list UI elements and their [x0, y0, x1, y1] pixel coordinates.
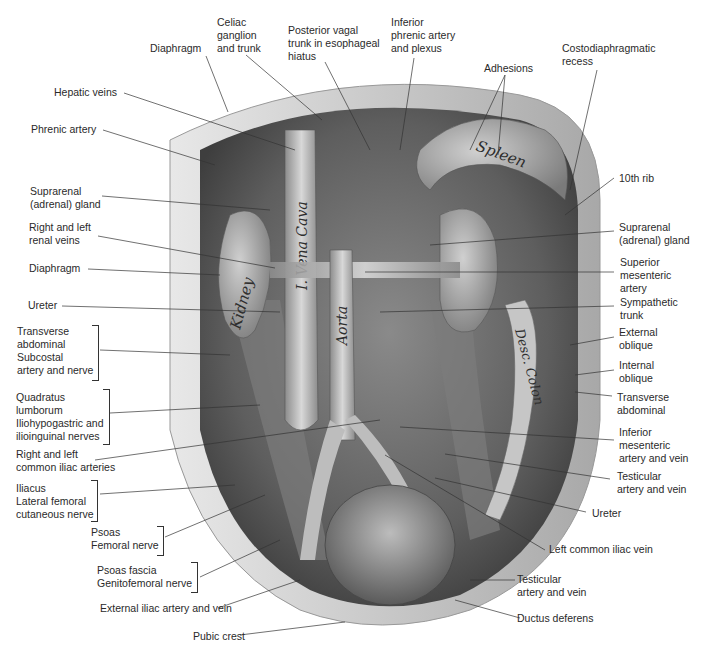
label-testicular-2: Testicular artery and vein [517, 573, 586, 599]
label-testicular-1: Testicular artery and vein [617, 470, 686, 496]
label-common-iliac-arteries: Right and left common iliac arteries [16, 448, 115, 474]
bracket-psoas-fascia [191, 562, 198, 593]
bracket-iliacus [91, 480, 98, 522]
label-ureter-right: Ureter [592, 507, 621, 520]
aorta-label: Aorta [334, 306, 350, 347]
label-diaphragm-top: Diaphragm [150, 42, 201, 55]
label-ureter-left: Ureter [28, 299, 57, 312]
label-left-common-iliac-vein: Left common iliac vein [549, 543, 653, 556]
label-transverse-subcostal: Transverse abdominal Subcostal artery an… [17, 325, 93, 377]
label-phrenic-artery: Phrenic artery [31, 123, 96, 136]
label-quadratus-lumborum: Quadratus lumborum Iliohypogastric and i… [16, 391, 104, 443]
label-tenth-rib: 10th rib [619, 172, 654, 185]
label-sympathetic-trunk: Sympathetic trunk [620, 296, 678, 322]
label-renal-veins: Right and left renal veins [29, 221, 91, 247]
label-superior-mesenteric: Superior mesenteric artery [620, 256, 671, 295]
anatomy-figure: Spleen Kidney I. Vena Cava Aorta Desc. C… [0, 0, 711, 653]
label-celiac-ganglion: Celiac ganglion and trunk [217, 16, 261, 55]
label-suprarenal-right: Suprarenal (adrenal) gland [619, 221, 690, 247]
bracket-quadratus [103, 389, 110, 445]
label-suprarenal-left: Suprarenal (adrenal) gland [30, 185, 101, 211]
label-inferior-mesenteric: Inferior mesenteric artery and vein [619, 426, 688, 465]
label-ductus-deferens: Ductus deferens [517, 612, 593, 625]
label-psoas-fascia: Psoas fascia Genitofemoral nerve [97, 564, 192, 590]
label-posterior-vagal-trunk: Posterior vagal trunk in esophageal hiat… [288, 24, 380, 63]
label-psoas: Psoas Femoral nerve [91, 526, 159, 552]
label-transverse-right: Transverse abdominal [617, 391, 669, 417]
bracket-psoas [157, 526, 164, 556]
bracket-transverse [92, 325, 99, 381]
label-inferior-phrenic: Inferior phrenic artery and plexus [391, 16, 455, 55]
label-hepatic-veins: Hepatic veins [54, 86, 117, 99]
label-pubic-crest: Pubic crest [193, 630, 245, 643]
label-iliacus: Iliacus Lateral femoral cutaneous nerve [16, 482, 94, 521]
label-external-iliac: External iliac artery and vein [100, 602, 232, 615]
label-diaphragm-left: Diaphragm [29, 262, 80, 275]
label-internal-oblique: Internal oblique [619, 359, 654, 385]
label-costodiaphragmatic-recess: Costodiaphragmatic recess [562, 42, 655, 68]
label-external-oblique: External oblique [619, 326, 658, 352]
label-adhesions: Adhesions [484, 62, 533, 75]
